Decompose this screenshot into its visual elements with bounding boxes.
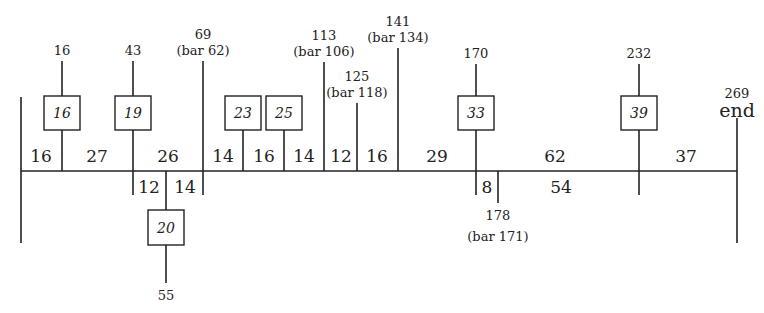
segment-length: 37 [675,146,697,166]
bar-reference-label: (bar 118) [326,85,387,100]
bar-number-label: 16 [54,43,71,58]
end-label: end [719,99,755,121]
segment-length: 14 [174,177,196,197]
bar-reference-label: (bar 62) [176,43,229,58]
section-box-number: 33 [467,105,485,121]
segment-length: 62 [544,146,566,166]
bar-reference-label: (bar 134) [367,30,428,45]
section-box-number: 25 [274,105,293,121]
section-box-number: 23 [233,105,252,121]
bar-number-label: 141 [386,14,411,29]
bar-number-label: 178 [486,208,511,223]
bar-number-label: 69 [195,27,212,42]
section-box-number: 39 [630,105,648,121]
segment-length: 54 [550,177,572,197]
bar-number-label: 170 [464,46,489,61]
segment-length: 12 [330,146,352,166]
section-box-number: 19 [124,105,142,121]
bar-reference-label: (bar 106) [293,44,354,59]
segment-length: 8 [482,177,493,197]
bar-number-label: 125 [345,69,370,84]
bar-reference-label: (bar 171) [467,229,528,244]
section-box-number: 16 [53,105,71,121]
segment-length: 16 [366,146,388,166]
segment-length: 16 [253,146,275,166]
segment-length: 29 [426,146,448,166]
bar-number-label: 113 [312,28,337,43]
bar-number-label: 43 [125,43,142,58]
bar-structure-diagram: 269end16161943(bar 62)692325(bar 106)113… [0,0,764,313]
segment-length: 26 [157,146,179,166]
section-box-number: 20 [156,220,175,236]
segment-length: 12 [138,177,160,197]
segment-length: 27 [86,146,108,166]
segment-length: 14 [293,146,315,166]
segment-length: 16 [30,146,52,166]
bar-number-label: 55 [158,288,175,303]
segment-length: 14 [212,146,234,166]
bar-number-label: 232 [627,46,652,61]
